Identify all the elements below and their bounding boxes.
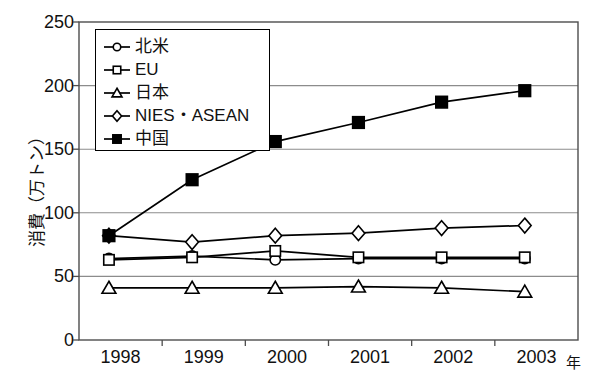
data-point-marker	[113, 134, 121, 142]
legend-marker-icon	[102, 129, 132, 149]
series-line	[109, 287, 525, 292]
data-point-marker	[112, 110, 121, 121]
data-point-marker	[352, 226, 365, 241]
data-point-marker	[520, 252, 530, 262]
legend-marker-icon	[102, 83, 132, 103]
legend-item-label: NIES・ASEAN	[132, 107, 249, 124]
data-point-marker	[436, 96, 448, 108]
legend-marker-icon	[102, 106, 132, 126]
data-point-marker	[518, 218, 531, 233]
plot-area	[0, 0, 599, 391]
data-point-marker	[113, 43, 120, 50]
x-axis-tick-label: 2000	[245, 347, 328, 368]
data-point-marker	[353, 117, 365, 129]
data-point-marker	[103, 230, 115, 242]
legend-item-label: 北米	[132, 38, 169, 55]
x-axis-tick-label: 2002	[412, 347, 495, 368]
series-line	[109, 226, 525, 243]
data-point-marker	[104, 255, 114, 265]
data-point-marker	[113, 66, 120, 73]
data-point-marker	[270, 246, 280, 256]
x-axis-tick-label: 2001	[329, 347, 412, 368]
x-axis-tick-labels: 199819992000200120022003	[0, 347, 599, 377]
x-axis-tick-label: 1999	[162, 347, 245, 368]
legend-item-4: NIES・ASEAN	[102, 104, 269, 127]
data-point-marker	[269, 228, 282, 243]
legend-item-2: EU	[102, 58, 269, 81]
legend-marker-icon	[102, 37, 132, 57]
x-axis-unit-label: 年	[566, 351, 581, 372]
legend-marker-icon	[102, 60, 132, 80]
legend-item-3: 日本	[102, 81, 269, 104]
data-point-marker	[436, 252, 446, 262]
data-point-marker	[269, 136, 281, 148]
data-point-marker	[435, 221, 448, 236]
data-point-marker	[519, 85, 531, 97]
consumption-line-chart: 消費（万トン） 050100150200250 1998199920002001…	[0, 0, 599, 391]
legend-item-1: 北米	[102, 35, 269, 58]
legend-item-label: 中国	[132, 130, 169, 147]
data-point-marker	[187, 252, 197, 262]
data-point-marker	[353, 252, 363, 262]
data-point-marker	[186, 235, 199, 250]
legend-item-label: EU	[132, 61, 159, 78]
legend-item-label: 日本	[132, 84, 169, 101]
legend-item-5: 中国	[102, 127, 269, 150]
x-axis-tick-label: 1998	[79, 347, 162, 368]
chart-legend: 北米EU日本NIES・ASEAN中国	[95, 29, 270, 151]
data-point-marker	[186, 174, 198, 186]
